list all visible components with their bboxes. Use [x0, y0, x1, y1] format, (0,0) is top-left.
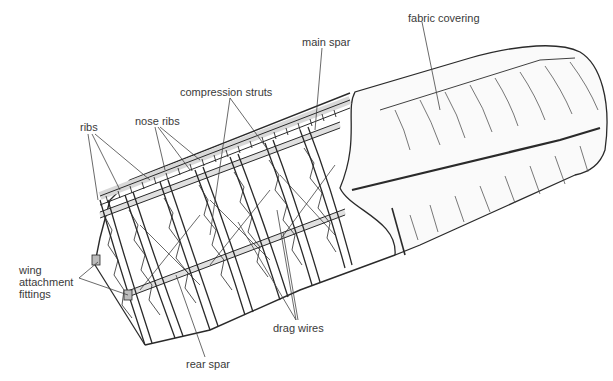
wing-diagram: fabric covering main spar compression st… [0, 0, 613, 381]
label-nose-ribs: nose ribs [135, 115, 180, 127]
fabric-covering-panel [340, 46, 607, 255]
label-ribs: ribs [80, 121, 98, 133]
label-wing-attachment-line3: fittings [19, 288, 51, 300]
label-wing-attachment-line2: attachment [19, 276, 73, 288]
label-wing-attachment-line1: wing [19, 264, 42, 276]
label-drag-wires: drag wires [273, 322, 324, 334]
label-fabric-covering: fabric covering [408, 12, 480, 24]
label-main-spar: main spar [302, 36, 350, 48]
label-compression-struts: compression struts [180, 86, 272, 98]
wing-frame-skeleton [92, 93, 395, 345]
label-rear-spar: rear spar [186, 358, 230, 370]
